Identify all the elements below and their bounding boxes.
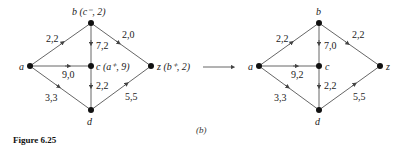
edge-label-ab: 2,2 [276,33,289,44]
node-label-c: c (a⁺, 9) [96,61,130,73]
edge-label-ab: 2,2 [46,33,59,44]
node-label-c: c [325,61,330,72]
right-network-graph: a b c d z 2,2 9,2 3,3 7,0 2,2 2,2 5,5 [248,6,390,127]
edge-label-ac: 9,0 [62,69,75,80]
left-network-graph: a b (c⁻, 2) c (a⁺, 9) d z (b⁺, 2) 2,2 9,… [19,6,191,127]
edge-label-dz: 5,5 [353,91,366,102]
node-z [148,63,154,69]
edge-a-d [259,66,319,110]
node-label-b: b (c⁻, 2) [72,6,106,18]
edge-label-dz: 5,5 [125,91,138,102]
edge-label-ad: 3,3 [274,92,287,103]
node-b [88,20,94,26]
arrow-icon [116,41,119,43]
node-d [88,107,94,113]
arrow-icon [124,84,127,86]
node-a [256,63,262,69]
node-c [88,63,94,69]
arrow-icon [289,42,292,44]
subfigure-label: (b) [196,125,207,135]
node-label-z: z (b⁺, 2) [156,61,191,73]
node-c [316,63,322,69]
edge-label-cd: 2,2 [324,80,337,91]
edge-label-cd: 2,2 [96,80,109,91]
node-label-a: a [19,61,24,72]
node-label-d: d [315,116,321,127]
figure-caption: Figure 6.25 [13,135,57,145]
edge-label-ad: 3,3 [45,92,58,103]
edge-a-d [30,66,91,110]
node-label-a: a [248,61,253,72]
edge-label-bz: 2,0 [122,29,135,40]
arrow-icon [285,85,288,87]
edge-label-bz: 2,2 [352,29,365,40]
arrow-icon [345,42,348,44]
figure-canvas: a b (c⁻, 2) c (a⁺, 9) d z (b⁺, 2) 2,2 9,… [0,0,405,147]
node-z [377,63,383,69]
arrow-icon [56,85,59,87]
node-b [316,20,322,26]
edge-label-ac: 9,2 [291,69,304,80]
edge-label-bc: 7,2 [96,40,109,51]
node-label-d: d [87,116,93,127]
edge-label-bc: 7,0 [324,40,337,51]
node-d [316,107,322,113]
node-label-z: z [385,61,390,72]
node-label-b: b [316,6,321,17]
node-a [27,63,33,69]
